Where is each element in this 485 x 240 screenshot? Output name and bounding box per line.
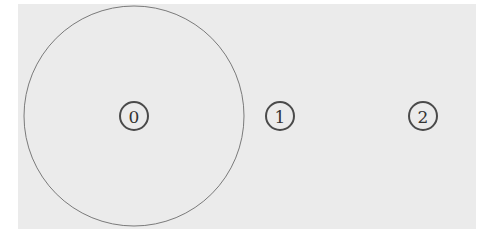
node-label: 0 (129, 107, 140, 127)
node-label: 2 (418, 107, 429, 127)
diagram-panel (18, 4, 476, 229)
diagram-canvas: 0 1 2 (0, 0, 485, 240)
node-label: 1 (275, 107, 286, 127)
